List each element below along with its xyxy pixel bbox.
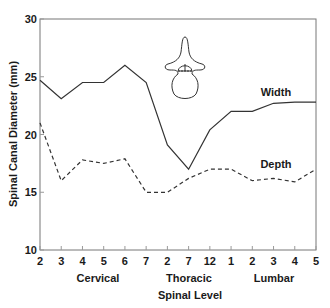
vertebra-icon <box>165 37 205 99</box>
y-tick-label: 20 <box>25 129 37 141</box>
x-axis: 234567271212345 <box>37 246 319 267</box>
series-lines <box>40 65 316 192</box>
plot-frame <box>40 19 316 250</box>
x-tick-label: 2 <box>37 255 43 267</box>
x-tick-label: 4 <box>79 255 86 267</box>
y-tick-label: 15 <box>25 186 37 198</box>
x-tick-label: 3 <box>58 255 64 267</box>
x-tick-label: 5 <box>101 255 107 267</box>
x-tick-label: 7 <box>143 255 149 267</box>
lumbar-group-label: Lumbar <box>254 272 295 284</box>
x-axis-title: Spinal Level <box>158 289 222 301</box>
width-series-label: Width <box>261 86 292 98</box>
x-tick-label: 1 <box>228 255 234 267</box>
y-axis: 1015202530 <box>25 13 44 256</box>
x-tick-label: 12 <box>204 255 216 267</box>
depth-series-label: Depth <box>260 158 291 170</box>
y-tick-label: 30 <box>25 13 37 25</box>
x-tick-label: 2 <box>164 255 170 267</box>
thoracic-group-label: Thoracic <box>166 272 212 284</box>
y-tick-label: 10 <box>25 244 37 256</box>
x-tick-label: 4 <box>292 255 299 267</box>
x-tick-label: 6 <box>122 255 128 267</box>
y-tick-label: 25 <box>25 71 37 83</box>
x-tick-label: 2 <box>249 255 255 267</box>
width-line <box>40 65 316 169</box>
y-axis-title: Spinal Canal Diameter (mm) <box>7 61 19 207</box>
spinal-canal-chart: 1015202530 234567271212345 Width Depth C… <box>0 0 330 308</box>
x-tick-label: 5 <box>313 255 319 267</box>
cervical-group-label: Cervical <box>77 272 120 284</box>
x-tick-label: 7 <box>186 255 192 267</box>
x-tick-label: 3 <box>270 255 276 267</box>
